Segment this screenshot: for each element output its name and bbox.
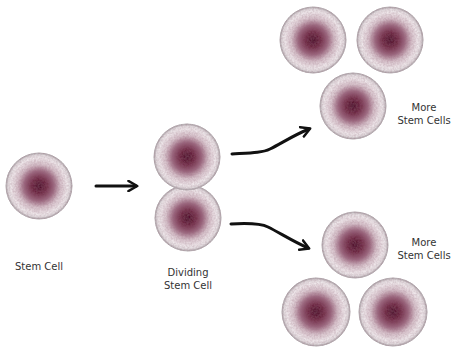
label-line: Stem Cell — [8, 260, 70, 273]
dividing-cell-group — [154, 124, 221, 251]
label-line: More — [394, 236, 454, 249]
top-left-cell — [280, 7, 346, 73]
arrow-to-top-group — [232, 129, 309, 154]
arrow-to-bottom-group — [231, 223, 308, 248]
top-right-cell — [357, 7, 423, 73]
label-more-stem-cells-bottom: More Stem Cells — [394, 236, 454, 262]
label-line: Dividing — [155, 266, 221, 279]
stem-cell-diagram — [0, 0, 454, 352]
label-stem-cell: Stem Cell — [8, 260, 70, 273]
label-line: Stem Cells — [394, 249, 454, 262]
dividing-cell-bottom-lobe — [155, 185, 221, 251]
bottom-left-cell — [282, 278, 350, 346]
label-dividing-stem-cell: Dividing Stem Cell — [155, 266, 221, 292]
label-line: More — [394, 101, 454, 114]
label-line: Stem Cell — [155, 279, 221, 292]
label-more-stem-cells-top: More Stem Cells — [394, 101, 454, 127]
top-bottom-cell — [320, 73, 386, 139]
bottom-cell-group — [282, 212, 427, 346]
stem-cell-group — [6, 153, 72, 219]
label-line: Stem Cells — [394, 114, 454, 127]
dividing-cell-top-lobe — [154, 124, 220, 190]
stem-cell — [6, 153, 72, 219]
bottom-top-cell — [322, 212, 388, 278]
bottom-right-cell — [359, 278, 427, 346]
